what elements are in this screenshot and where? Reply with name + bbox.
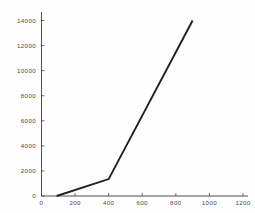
x-axis-tick-labels: 020040060080010001200	[40, 199, 251, 206]
y-tick-label: 4000	[21, 142, 36, 149]
y-tick-label: 8000	[21, 92, 36, 99]
y-tick-label: 0	[32, 192, 36, 199]
y-tick-label: 14000	[17, 17, 36, 24]
chart-plot-area: 02000400060008000100001200014000 0200400…	[0, 0, 255, 213]
data-series-group	[57, 21, 193, 196]
x-tick-label: 800	[170, 199, 182, 206]
y-axis-tick-labels: 02000400060008000100001200014000	[17, 17, 36, 199]
y-tick-label: 12000	[17, 42, 36, 49]
x-tick-label: 1200	[235, 199, 250, 206]
y-tick-label: 10000	[17, 67, 36, 74]
x-tick-label: 0	[40, 199, 44, 206]
series-line-series-1	[57, 21, 193, 196]
chart-container: 02000400060008000100001200014000 0200400…	[0, 0, 255, 213]
x-tick-label: 600	[137, 199, 149, 206]
x-tick-label: 400	[103, 199, 115, 206]
x-tick-label: 200	[69, 199, 81, 206]
y-tick-label: 6000	[21, 117, 36, 124]
y-tick-label: 2000	[21, 167, 36, 174]
x-tick-label: 1000	[202, 199, 217, 206]
